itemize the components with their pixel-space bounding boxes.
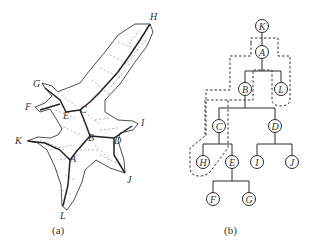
label-J: J	[127, 174, 132, 185]
label-C: C	[80, 104, 87, 115]
caption-b: (b)	[224, 224, 237, 236]
label-B: B	[88, 132, 94, 143]
tree-node-label: G	[245, 194, 252, 205]
label-I: I	[140, 117, 145, 128]
tree-node-label: I	[254, 157, 259, 168]
label-D: D	[113, 135, 122, 146]
label-F: F	[24, 101, 32, 112]
tree-node-label: L	[277, 84, 284, 95]
tree-node-label: A	[258, 47, 266, 58]
tree-node-label: F	[209, 194, 217, 205]
figure-a-polygon-skeleton: H G F C E I K B D A J L	[0, 0, 309, 247]
label-A: A	[69, 153, 77, 164]
label-H: H	[149, 11, 158, 22]
label-L: L	[59, 210, 66, 221]
label-K: K	[14, 135, 23, 146]
tree-node-label: E	[228, 157, 235, 168]
medial-skeleton	[28, 24, 150, 206]
tree-node-label: H	[198, 157, 207, 168]
tree-node-label: C	[216, 121, 223, 132]
tree-node-label: B	[242, 84, 248, 95]
tree-node-label: J	[290, 157, 295, 168]
label-E: E	[62, 110, 69, 121]
label-G: G	[33, 78, 40, 89]
polygon-outline	[27, 24, 153, 210]
figure-a-labels: H G F C E I K B D A J L	[14, 11, 158, 221]
caption-a: (a)	[52, 224, 64, 236]
tree-node-label: K	[258, 21, 267, 32]
figure-b-tree: K A B L C D H E I J F G	[190, 20, 299, 206]
tree-node-label: D	[270, 121, 279, 132]
